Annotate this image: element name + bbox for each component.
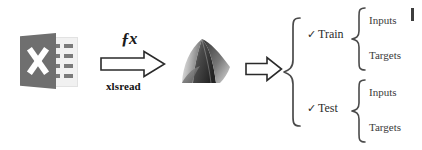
right-arrow-icon <box>245 56 283 82</box>
excel-document-shape <box>20 33 56 89</box>
branch-label-train: ✓Train <box>307 27 344 42</box>
excel-x-mark-icon <box>24 47 52 75</box>
leaf-label-train-inputs: Inputs <box>369 14 397 26</box>
curly-brace-main <box>282 16 304 128</box>
branch-name-test: Test <box>318 101 338 115</box>
check-icon: ✓ <box>307 102 316 114</box>
matlab-membrane-logo <box>180 33 236 85</box>
leaf-label-test-targets: Targets <box>369 121 401 133</box>
xlsread-function-label: xlsread <box>106 80 141 92</box>
edge-artifact-mark <box>411 8 414 21</box>
check-icon: ✓ <box>307 28 316 40</box>
function-symbol-label: ƒx <box>121 29 137 49</box>
curly-brace-train <box>350 6 368 72</box>
branch-name-train: Train <box>318 27 344 41</box>
excel-file-icon <box>20 33 78 89</box>
right-arrow-icon <box>100 50 166 78</box>
leaf-label-test-inputs: Inputs <box>369 86 397 98</box>
leaf-label-train-targets: Targets <box>369 49 401 61</box>
branch-label-test: ✓Test <box>307 101 338 116</box>
curly-brace-test <box>350 78 368 144</box>
diagram-canvas: ƒx xlsread <box>0 0 422 150</box>
